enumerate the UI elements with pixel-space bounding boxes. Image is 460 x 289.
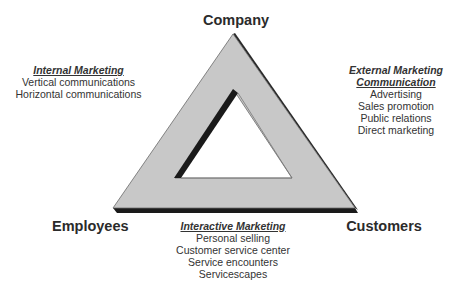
external-marketing-title-line2: Communication (340, 76, 452, 88)
internal-marketing-block: Internal Marketing Vertical communicatio… (6, 64, 151, 100)
internal-marketing-title: Internal Marketing (6, 64, 151, 76)
triangle-frame (113, 34, 355, 208)
internal-marketing-item: Vertical communications (6, 76, 151, 88)
external-marketing-item: Direct marketing (340, 124, 452, 136)
vertex-company: Company (203, 12, 265, 28)
interactive-marketing-item: Service encounters (170, 256, 296, 268)
interactive-marketing-item: Customer service center (170, 244, 296, 256)
triangle-shadow (113, 208, 358, 213)
interactive-marketing-title: Interactive Marketing (170, 220, 296, 232)
interactive-marketing-block: Interactive Marketing Personal selling C… (170, 220, 296, 280)
external-marketing-title-line1: External Marketing (340, 64, 452, 76)
interactive-marketing-item: Personal selling (170, 232, 296, 244)
external-marketing-item: Public relations (340, 112, 452, 124)
external-marketing-block: External Marketing Communication Adverti… (340, 64, 452, 136)
vertex-employees: Employees (52, 218, 126, 234)
external-marketing-item: Sales promotion (340, 100, 452, 112)
services-marketing-triangle: Company Employees Customers Internal Mar… (0, 0, 460, 289)
internal-marketing-item: Horizontal communications (6, 88, 151, 100)
vertex-customers: Customers (344, 218, 424, 234)
interactive-marketing-item: Servicescapes (170, 268, 296, 280)
external-marketing-item: Advertising (340, 88, 452, 100)
